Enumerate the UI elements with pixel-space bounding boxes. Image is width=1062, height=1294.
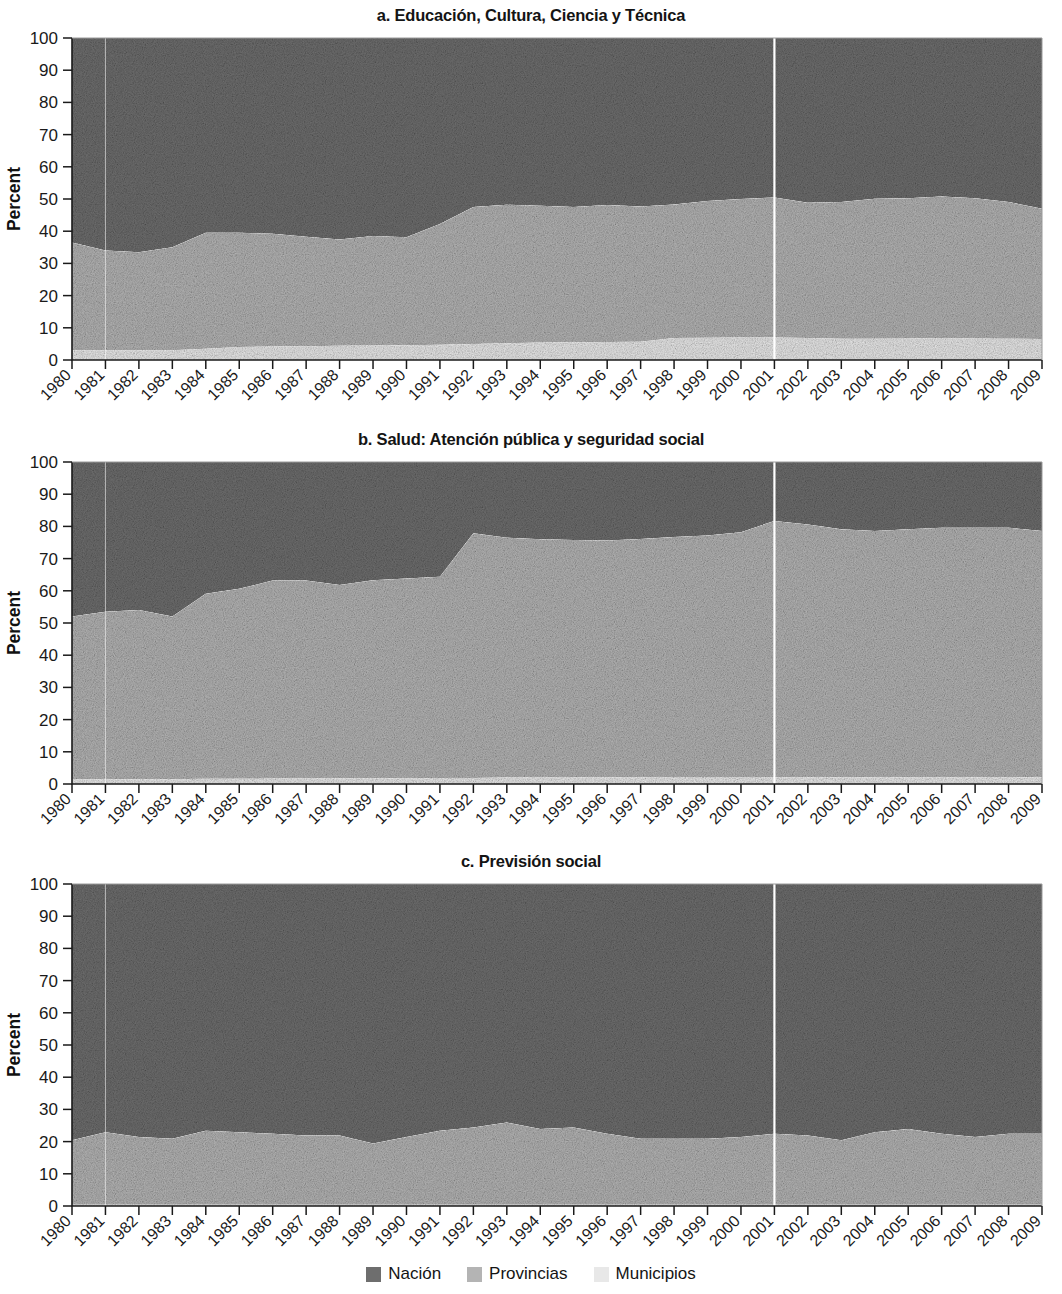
x-tick-label: 2000 [706, 790, 743, 827]
svg-chart-panel-b: 0102030405060708090100Percent19801981198… [0, 454, 1062, 846]
x-tick-label: 1987 [271, 366, 308, 403]
y-tick-label: 40 [39, 1068, 58, 1087]
x-tick-label: 2007 [940, 1212, 977, 1249]
x-tick-label: 1982 [104, 790, 141, 827]
x-tick-label: 1985 [204, 366, 241, 403]
y-tick-label: 90 [39, 907, 58, 926]
x-tick-label: 2005 [873, 1212, 910, 1249]
x-tick-label: 1986 [238, 1212, 275, 1249]
x-tick-label: 1997 [606, 366, 643, 403]
x-tick-label: 2005 [873, 366, 910, 403]
x-tick-label: 1992 [438, 1212, 475, 1249]
legend-swatch-municipios [594, 1267, 609, 1282]
x-tick-label: 1993 [472, 790, 509, 827]
x-tick-label: 1983 [137, 790, 174, 827]
legend-label-municipios: Municipios [616, 1264, 696, 1284]
y-tick-label: 30 [39, 678, 58, 697]
x-tick-label: 1995 [539, 790, 576, 827]
y-tick-label: 80 [39, 939, 58, 958]
x-tick-label: 2006 [907, 790, 944, 827]
x-tick-label: 2004 [840, 790, 877, 827]
x-tick-label: 1982 [104, 366, 141, 403]
y-tick-label: 70 [39, 126, 58, 145]
x-tick-label: 1989 [338, 366, 375, 403]
x-tick-label: 1980 [37, 1212, 74, 1249]
legend-label-nacion: Nación [388, 1264, 441, 1284]
y-tick-label: 40 [39, 646, 58, 665]
y-axis-title: Percent [4, 1013, 24, 1077]
x-tick-label: 2005 [873, 790, 910, 827]
x-tick-label: 1988 [305, 790, 342, 827]
x-tick-label: 1983 [137, 366, 174, 403]
y-tick-label: 60 [39, 582, 58, 601]
legend-item-nacion: Nación [366, 1264, 441, 1284]
x-tick-label: 1994 [505, 1212, 542, 1249]
x-tick-label: 1980 [37, 366, 74, 403]
x-tick-label: 2004 [840, 366, 877, 403]
x-tick-label: 2007 [940, 790, 977, 827]
x-tick-label: 1990 [371, 366, 408, 403]
x-tick-label: 1990 [371, 1212, 408, 1249]
x-tick-label: 2008 [973, 790, 1010, 827]
x-tick-label: 1999 [672, 366, 709, 403]
legend-swatch-nacion [366, 1267, 381, 1282]
x-tick-label: 1994 [505, 366, 542, 403]
y-tick-label: 0 [49, 351, 58, 370]
y-tick-label: 50 [39, 614, 58, 633]
legend-item-provincias: Provincias [467, 1264, 567, 1284]
panel-title: a. Educación, Cultura, Ciencia y Técnica [0, 0, 1062, 30]
x-tick-label: 1984 [171, 366, 208, 403]
plot-area-panel-a: 0102030405060708090100Percent19801981198… [0, 30, 1062, 422]
x-tick-label: 2008 [973, 1212, 1010, 1249]
y-tick-label: 90 [39, 61, 58, 80]
x-tick-label: 1997 [606, 790, 643, 827]
svg-chart-panel-c: 0102030405060708090100Percent19801981198… [0, 876, 1062, 1268]
x-tick-label: 1993 [472, 1212, 509, 1249]
x-tick-label: 1981 [70, 790, 107, 827]
x-tick-label: 1991 [405, 366, 442, 403]
x-tick-label: 2006 [907, 1212, 944, 1249]
y-tick-label: 50 [39, 190, 58, 209]
y-tick-label: 70 [39, 972, 58, 991]
x-tick-label: 1986 [238, 790, 275, 827]
y-tick-label: 10 [39, 319, 58, 338]
y-tick-label: 30 [39, 254, 58, 273]
y-tick-label: 60 [39, 1004, 58, 1023]
x-tick-label: 1987 [271, 1212, 308, 1249]
x-tick-label: 1991 [405, 1212, 442, 1249]
area-series-provincias [72, 1123, 1042, 1205]
x-tick-label: 2001 [739, 366, 776, 403]
x-tick-label: 1989 [338, 1212, 375, 1249]
x-tick-label: 2000 [706, 1212, 743, 1249]
chart-panel-panel-a: a. Educación, Cultura, Ciencia y Técnica… [0, 0, 1062, 422]
x-tick-label: 1992 [438, 366, 475, 403]
x-tick-label: 1985 [204, 1212, 241, 1249]
x-tick-label: 1998 [639, 366, 676, 403]
x-tick-label: 1986 [238, 366, 275, 403]
x-tick-label: 2000 [706, 366, 743, 403]
x-tick-label: 1998 [639, 790, 676, 827]
y-tick-label: 10 [39, 743, 58, 762]
x-tick-label: 1980 [37, 790, 74, 827]
y-tick-label: 80 [39, 93, 58, 112]
x-tick-label: 1984 [171, 790, 208, 827]
x-tick-label: 1981 [70, 1212, 107, 1249]
legend-swatch-provincias [467, 1267, 482, 1282]
x-tick-label: 1988 [305, 366, 342, 403]
y-tick-label: 80 [39, 517, 58, 536]
x-tick-label: 2004 [840, 1212, 877, 1249]
x-tick-label: 1999 [672, 790, 709, 827]
x-tick-label: 2002 [773, 1212, 810, 1249]
chart-legend: NaciónProvinciasMunicipios [0, 1264, 1062, 1284]
x-tick-label: 1990 [371, 790, 408, 827]
x-tick-label: 1996 [572, 366, 609, 403]
x-tick-label: 1997 [606, 1212, 643, 1249]
x-tick-label: 2003 [806, 1212, 843, 1249]
chart-panel-panel-c: c. Previsión social010203040506070809010… [0, 846, 1062, 1268]
svg-chart-panel-a: 0102030405060708090100Percent19801981198… [0, 30, 1062, 422]
chart-panel-panel-b: b. Salud: Atención pública y seguridad s… [0, 424, 1062, 846]
x-tick-label: 1991 [405, 790, 442, 827]
x-tick-label: 2001 [739, 790, 776, 827]
x-tick-label: 2003 [806, 790, 843, 827]
y-tick-label: 90 [39, 485, 58, 504]
